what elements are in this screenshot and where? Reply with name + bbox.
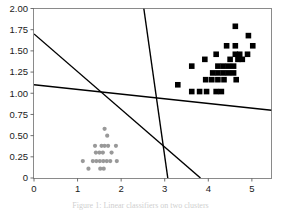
y-tick-label: 1.00: [10, 88, 29, 99]
data-point-square: [240, 57, 246, 63]
data-point-square: [220, 63, 226, 69]
data-point-square: [233, 77, 239, 83]
data-point-square: [213, 51, 219, 57]
data-point-square: [246, 33, 252, 39]
y-tick-label: 0.50: [10, 130, 29, 141]
y-axis-tick-labels: 00.250.500.751.001.251.501.752.00: [10, 3, 29, 184]
data-point-circle: [109, 150, 113, 154]
data-point-square: [231, 63, 237, 69]
data-point-square: [226, 70, 232, 76]
data-point-circle: [105, 134, 109, 138]
data-point-square: [219, 89, 225, 95]
data-point-square: [175, 82, 181, 88]
data-point-circle: [108, 159, 112, 163]
y-tick-label: 0.75: [10, 109, 29, 120]
data-point-square: [237, 51, 243, 57]
data-point-square: [250, 43, 256, 49]
x-tick-label: 1: [75, 183, 80, 194]
data-point-circle: [86, 167, 90, 171]
data-point-square: [209, 77, 215, 83]
plot-frame: [34, 9, 272, 179]
data-point-circle: [102, 127, 106, 131]
data-point-circle: [81, 159, 85, 163]
figure-container: 012345 00.250.500.751.001.251.501.752.00…: [0, 0, 281, 212]
x-tick-label: 0: [31, 183, 36, 194]
data-point-square: [203, 77, 209, 83]
figure-caption: Figure 1: Linear classifiers on two clus…: [0, 199, 281, 212]
data-point-square: [204, 89, 210, 95]
data-point-square: [215, 77, 221, 83]
x-tick-label: 3: [162, 183, 167, 194]
scatter-plot: 012345 00.250.500.751.001.251.501.752.00: [0, 0, 281, 212]
x-axis-tick-labels: 012345: [31, 183, 254, 194]
data-point-square: [231, 70, 237, 76]
data-point-circle: [102, 167, 106, 171]
data-point-circle: [93, 144, 97, 148]
plot-frame-border: [34, 9, 272, 179]
y-tick-label: 1.75: [10, 24, 29, 35]
data-point-square: [227, 57, 233, 63]
x-tick-label: 2: [119, 183, 124, 194]
data-point-square: [210, 70, 216, 76]
data-point-square: [233, 43, 239, 49]
data-point-square: [224, 43, 230, 49]
data-point-square: [215, 70, 221, 76]
data-point-square: [213, 89, 219, 95]
y-tick-label: 1.25: [10, 66, 29, 77]
data-point-circle: [114, 144, 118, 148]
data-point-square: [226, 63, 232, 69]
x-tick-label: 5: [249, 183, 254, 194]
data-point-circle: [115, 159, 119, 163]
y-tick-label: 0.25: [10, 151, 29, 162]
y-tick-label: 0: [23, 172, 28, 183]
data-point-square: [233, 23, 239, 29]
data-point-circle: [106, 144, 110, 148]
data-point-square: [220, 70, 226, 76]
data-point-square: [245, 51, 251, 57]
data-point-square: [221, 77, 227, 83]
y-tick-label: 1.50: [10, 45, 29, 56]
data-point-square: [215, 63, 221, 69]
x-tick-label: 4: [206, 183, 211, 194]
data-point-square: [202, 57, 208, 63]
data-point-square: [197, 89, 203, 95]
y-tick-label: 2.00: [10, 3, 29, 14]
data-point-square: [189, 63, 195, 69]
data-point-square: [189, 89, 195, 95]
data-point-circle: [101, 150, 105, 154]
